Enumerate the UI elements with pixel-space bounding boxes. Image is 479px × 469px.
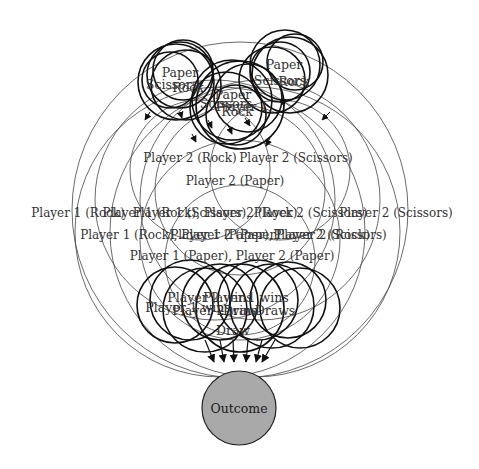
node-label-player2-scissors: Player 2 (Scissors): [339, 206, 453, 220]
node-label-combo: Player 1 (Scissors), Player 2 (Scissors): [133, 206, 368, 220]
node-label-paper: Paper: [266, 57, 303, 72]
node-label-rock: Rock: [172, 80, 204, 95]
node-label-result: Draw: [216, 323, 250, 338]
top-right-labels: Paper Scissors Rock: [254, 57, 310, 89]
node-label-rock: Rock: [221, 104, 253, 119]
combination-labels: Player 1 (Rock) Player 1 (Rock), Player …: [31, 206, 453, 263]
node-label-result: Draws: [255, 303, 296, 318]
outcome-node-label: Outcome: [210, 401, 267, 416]
game-graph-diagram: Paper Scissors Rock Paper Player 1 Sciss…: [0, 0, 479, 469]
node-label-player2-paper: Player 2 (Paper): [186, 174, 285, 188]
node-label-player2-scissors: Player 2 (Scissors): [239, 151, 353, 165]
outcome-node: Outcome: [202, 371, 276, 445]
node-label-player2-scissors: Player 2 (Scissors): [273, 228, 387, 242]
node-label-rock: Rock: [278, 74, 310, 89]
node-label-combo: Player 1 (Paper), Player 2 (Paper): [130, 249, 335, 263]
node-label-result: Player 2 wins: [172, 303, 257, 318]
node-label-player2-rock: Player 2 (Rock): [143, 151, 237, 165]
